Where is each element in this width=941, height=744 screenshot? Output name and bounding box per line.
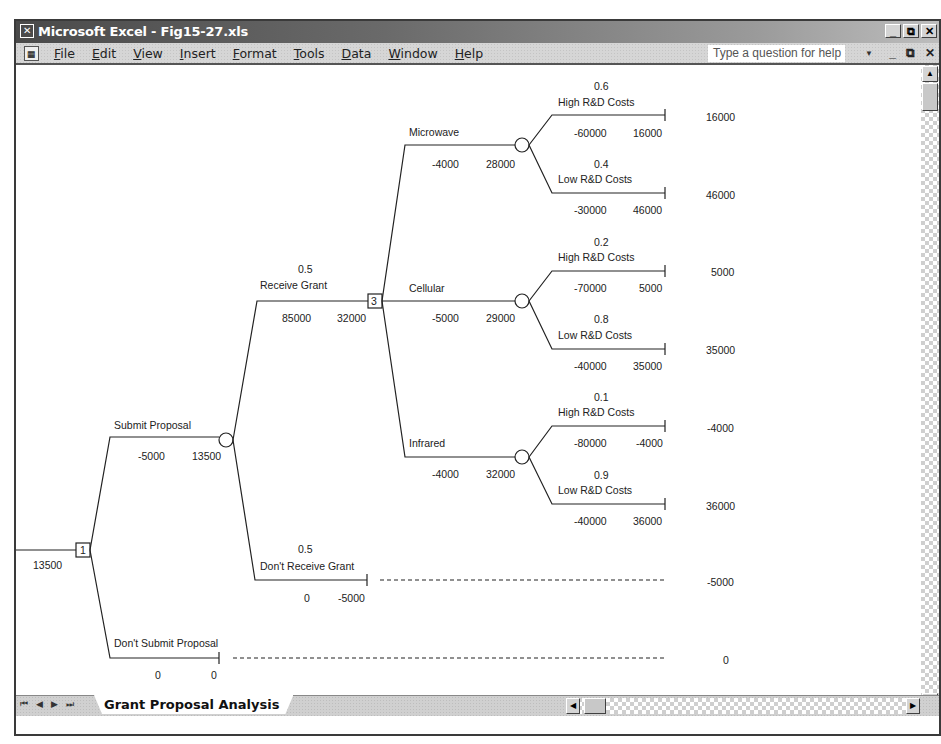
menu-view[interactable]: View [133, 46, 163, 61]
excel-window: ✕ Microsoft Excel - Fig15-27.xls _ ⧉ ✕ ▦… [14, 19, 941, 736]
cellular-low-label: Low R&D Costs [558, 329, 632, 341]
window-title: Microsoft Excel - Fig15-27.xls [38, 24, 248, 39]
payoff-microwave-high: 16000 [706, 111, 735, 123]
payoff-cellular-high: 5000 [711, 266, 735, 278]
scroll-left-icon[interactable]: ◀ [566, 698, 580, 714]
first-sheet-icon[interactable]: ⏮ [20, 699, 28, 710]
payoff-microwave-low: 46000 [706, 189, 735, 201]
microwave-low-value: 46000 [633, 204, 662, 216]
branch-receive-cost: 85000 [282, 312, 311, 324]
cellular-low-cost: -40000 [574, 360, 607, 372]
branch-submit-cost: -5000 [138, 450, 165, 462]
cellular-high-label: High R&D Costs [558, 251, 634, 263]
prev-sheet-icon[interactable]: ◀ [36, 699, 43, 710]
horizontal-scrollbar[interactable]: ◀ ▶ [566, 698, 920, 714]
microwave-high-value: 16000 [633, 127, 662, 139]
cellular-high-prob: 0.2 [594, 236, 609, 248]
infrared-low-label: Low R&D Costs [558, 484, 632, 496]
option-microwave-value: 28000 [486, 158, 515, 170]
branch-receive-value: 32000 [337, 312, 366, 324]
menu-help[interactable]: Help [455, 46, 484, 61]
scroll-up-icon[interactable]: ▲ [922, 66, 938, 82]
doc-minimize-button[interactable]: _ [889, 46, 896, 60]
microwave-low-cost: -30000 [574, 204, 607, 216]
menu-insert[interactable]: Insert [180, 46, 216, 61]
menu-data[interactable]: Data [342, 46, 372, 61]
decision-tree: 1 3 13500 Submit Proposal -5000 13500 Do… [16, 65, 921, 695]
help-search-input[interactable]: Type a question for help [708, 45, 845, 62]
option-infrared-label: Infrared [409, 437, 445, 449]
worksheet-area[interactable]: 1 3 13500 Submit Proposal -5000 13500 Do… [16, 65, 921, 695]
option-infrared-value: 32000 [486, 468, 515, 480]
payoff-dont-submit: 0 [723, 654, 729, 666]
option-microwave-label: Microwave [409, 126, 459, 138]
payoff-dont-receive: -5000 [707, 576, 734, 588]
option-cellular-label: Cellular [409, 282, 445, 294]
menu-file[interactable]: File [54, 46, 75, 61]
microwave-low-label: Low R&D Costs [558, 173, 632, 185]
branch-dont-receive-value: -5000 [338, 592, 365, 604]
cellular-low-value: 35000 [633, 360, 662, 372]
microwave-high-label: High R&D Costs [558, 96, 634, 108]
decision-node-3[interactable]: 3 [371, 295, 377, 307]
infrared-high-cost: -80000 [574, 437, 607, 449]
infrared-low-value: 36000 [633, 515, 662, 527]
sheet-tab-grant-proposal-analysis[interactable]: Grant Proposal Analysis [94, 695, 293, 714]
vertical-scrollbar[interactable]: ▲ ▼ [921, 65, 939, 710]
menu-format[interactable]: Format [233, 46, 277, 61]
branch-dont-submit-cost: 0 [155, 669, 161, 681]
branch-dont-receive-cost: 0 [304, 592, 310, 604]
scroll-right-icon[interactable]: ▶ [906, 698, 920, 714]
doc-restore-button[interactable]: ⧉ [906, 46, 915, 60]
infrared-high-prob: 0.1 [594, 391, 609, 403]
cellular-low-prob: 0.8 [594, 313, 609, 325]
cellular-high-value: 5000 [639, 282, 663, 294]
branch-receive-prob: 0.5 [298, 263, 313, 275]
branch-dont-receive-prob: 0.5 [298, 543, 313, 555]
microwave-high-prob: 0.6 [594, 80, 609, 92]
last-sheet-icon[interactable]: ⏭ [66, 699, 74, 710]
cellular-high-cost: -70000 [574, 282, 607, 294]
branch-receive-label: Receive Grant [260, 279, 327, 291]
vertical-scroll-thumb[interactable] [922, 83, 938, 111]
doc-close-button[interactable]: ✕ [925, 46, 935, 60]
branch-submit-label: Submit Proposal [114, 419, 191, 431]
decision-node-1[interactable]: 1 [80, 544, 86, 556]
excel-app-icon: ✕ [20, 24, 34, 38]
infrared-high-label: High R&D Costs [558, 406, 634, 418]
restore-button[interactable]: ⧉ [903, 24, 919, 38]
horizontal-scroll-thumb[interactable] [584, 698, 606, 714]
payoff-cellular-low: 35000 [706, 344, 735, 356]
option-infrared-cost: -4000 [432, 468, 459, 480]
payoff-infrared-high: -4000 [707, 422, 734, 434]
title-bar: ✕ Microsoft Excel - Fig15-27.xls _ ⧉ ✕ [16, 21, 939, 43]
option-cellular-value: 29000 [486, 312, 515, 324]
branch-dont-submit-label: Don't Submit Proposal [114, 637, 218, 649]
infrared-low-prob: 0.9 [594, 469, 609, 481]
workbook-icon[interactable]: ▦ [24, 46, 39, 61]
branch-dont-receive-label: Don't Receive Grant [260, 560, 354, 572]
branch-dont-submit-value: 0 [211, 669, 217, 681]
menu-bar: ▦ File Edit View Insert Format Tools Dat… [16, 43, 939, 65]
menu-window[interactable]: Window [388, 46, 437, 61]
option-cellular-cost: -5000 [432, 312, 459, 324]
option-microwave-cost: -4000 [432, 158, 459, 170]
branch-submit-value: 13500 [192, 450, 221, 462]
close-button[interactable]: ✕ [921, 24, 937, 38]
infrared-low-cost: -40000 [574, 515, 607, 527]
help-dropdown-icon[interactable]: ▼ [865, 49, 873, 58]
microwave-low-prob: 0.4 [594, 158, 609, 170]
sheet-tab-bar: ⏮ ◀ ▶ ⏭ Grant Proposal Analysis ◀ ▶ [16, 695, 939, 716]
next-sheet-icon[interactable]: ▶ [51, 699, 58, 710]
minimize-button[interactable]: _ [885, 24, 901, 38]
root-value: 13500 [33, 559, 62, 571]
microwave-high-cost: -60000 [574, 127, 607, 139]
infrared-high-value: -4000 [636, 437, 663, 449]
menu-tools[interactable]: Tools [294, 46, 325, 61]
menu-edit[interactable]: Edit [92, 46, 116, 61]
payoff-infrared-low: 36000 [706, 500, 735, 512]
